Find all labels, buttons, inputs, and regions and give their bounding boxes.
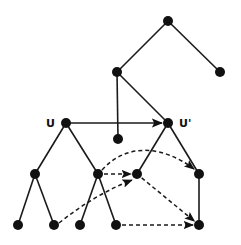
tree-edge xyxy=(117,72,118,139)
dashed-mapping-arrow xyxy=(142,178,195,221)
tree-node-root xyxy=(163,16,173,26)
dashed-arrows xyxy=(59,150,194,225)
tree-node-up-right xyxy=(194,169,204,179)
tree-node-u-prime xyxy=(163,118,173,128)
tree-edge xyxy=(168,21,220,72)
tree-edge xyxy=(98,174,116,225)
tree-node-l1-right xyxy=(215,67,225,77)
tree-node-mid-leaf xyxy=(113,134,123,144)
tree-node-leaf-2 xyxy=(49,220,59,230)
tree-mapping-diagram: UU' xyxy=(0,0,241,245)
tree-node-l1-left xyxy=(112,67,122,77)
tree-edge xyxy=(66,123,98,174)
tree-node-u xyxy=(61,118,71,128)
tree-edge xyxy=(35,123,66,174)
label-u-prime: U' xyxy=(179,117,191,130)
label-u: U xyxy=(46,117,55,130)
dashed-mapping-arrow xyxy=(102,150,194,170)
tree-edge xyxy=(168,123,199,174)
tree-node-leaf-1 xyxy=(13,220,23,230)
tree-node-up-leaf xyxy=(194,220,204,230)
tree-edge xyxy=(117,72,168,123)
tree-edge xyxy=(18,174,35,225)
tree-edge xyxy=(35,174,54,225)
dashed-mapping-arrow xyxy=(59,180,132,223)
tree-edge xyxy=(80,174,98,225)
tree-node-u-right xyxy=(93,169,103,179)
tree-node-leaf-4 xyxy=(111,220,121,230)
tree-node-u-left xyxy=(30,169,40,179)
tree-node-leaf-3 xyxy=(75,220,85,230)
tree-edge xyxy=(137,123,168,174)
tree-edge xyxy=(117,21,168,72)
tree-node-up-left xyxy=(132,169,142,179)
diagram-svg: UU' xyxy=(0,0,241,245)
